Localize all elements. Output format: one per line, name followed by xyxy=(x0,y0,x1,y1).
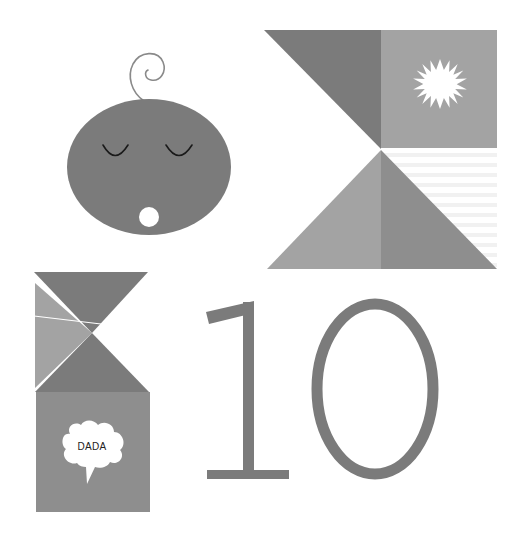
geometric-block-top-right xyxy=(264,30,497,269)
digit-zero xyxy=(317,304,433,474)
baby-face xyxy=(67,54,231,235)
top-dark-triangle xyxy=(264,30,381,149)
digit-one xyxy=(206,301,289,479)
number-ten xyxy=(206,301,433,479)
illustration-canvas: DADA xyxy=(0,0,529,538)
geometric-block-bottom-left: DADA xyxy=(34,272,150,512)
mouth-circle xyxy=(139,207,159,227)
speech-bubble-text: DADA xyxy=(78,441,107,452)
hair-curl-icon xyxy=(130,54,164,101)
bottom-left-light-triangle xyxy=(267,150,381,269)
